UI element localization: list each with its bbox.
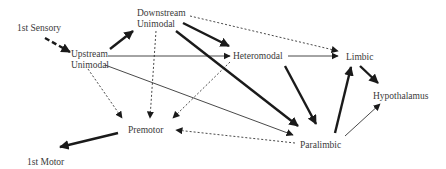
node-heteromodal: Heteromodal [233, 51, 283, 61]
edges [45, 16, 380, 147]
node-paralimbic: Paralimbic [300, 140, 341, 150]
edge-downstream-limbic [190, 16, 338, 51]
node-1st-motor: 1st Motor [27, 157, 65, 167]
edge-paralimbic-premotor [176, 130, 295, 143]
edge-paralimbic-hypothalamus [345, 104, 380, 136]
edge-downstream-premotor [150, 31, 156, 118]
cortical-connectivity-diagram: 1st Sensory Upstream Unimodal Downstream… [0, 0, 446, 169]
edge-heteromodal-paralimbic [285, 66, 316, 124]
node-limbic: Limbic [346, 52, 373, 62]
node-1st-sensory: 1st Sensory [17, 23, 61, 33]
edge-paralimbic-limbic [335, 67, 351, 133]
node-downstream-unimodal-line2: Unimodal [137, 19, 175, 29]
node-premotor: Premotor [128, 125, 164, 135]
edge-upstream-premotor [88, 69, 122, 118]
node-upstream-unimodal-line2: Unimodal [71, 60, 109, 70]
edge-heteromodal-premotor [173, 62, 230, 118]
edge-sensory-upstream [45, 38, 70, 52]
edge-limbic-hypothalamus [360, 66, 378, 83]
edge-premotor-motor [60, 133, 118, 147]
edge-upstream-downstream [110, 31, 133, 49]
node-hypothalamus: Hypothalamus [373, 91, 429, 101]
node-downstream-unimodal-line1: Downstream [137, 8, 186, 18]
edge-downstream-paralimbic [176, 31, 298, 126]
node-upstream-unimodal-line1: Upstream [71, 49, 109, 59]
